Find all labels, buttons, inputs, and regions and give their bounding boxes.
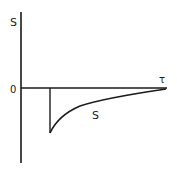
s-vs-tau-diagram: S 0 τ S [0, 0, 177, 171]
origin-label: 0 [10, 84, 16, 95]
curve-label: S [92, 109, 99, 122]
x-axis-label: τ [159, 74, 165, 85]
s-curve [50, 89, 166, 133]
y-axis-label: S [10, 16, 17, 29]
